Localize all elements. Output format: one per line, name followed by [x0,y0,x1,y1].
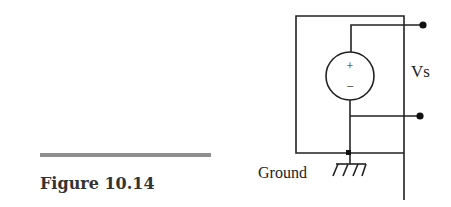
top-terminal-wire [351,25,422,52]
circuit-diagram: + − Vs Ground [0,0,451,207]
ground-label: Ground [258,164,307,181]
source-plus-sign: + [347,59,354,73]
ground-symbol-icon [333,164,366,176]
circuit-wires [296,16,422,200]
ground-junction-node-icon [346,150,351,155]
source-minus-sign: − [346,79,353,94]
bottom-terminal-node-icon [416,112,423,119]
source-voltage-label: Vs [411,62,430,81]
circuit-nodes [346,21,427,155]
top-terminal-node-icon [419,21,426,28]
